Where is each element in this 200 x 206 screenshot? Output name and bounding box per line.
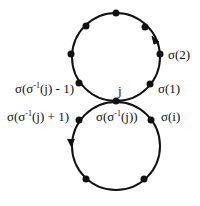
label-sigma-pred: σ(σ-1(j) - 1) (15, 81, 74, 96)
dot-sigma-i (148, 117, 155, 124)
dot-top (113, 10, 120, 17)
dot-upper-left (83, 23, 90, 30)
label-j: j (117, 83, 122, 98)
label-sigma-succ: σ(σ-1(j) + 1) (7, 109, 69, 124)
dot-left (68, 51, 75, 58)
dot-bottom-right (141, 176, 148, 183)
dot-sigma-2 (157, 51, 164, 58)
dot-sigma-pred (76, 80, 83, 87)
dot-sigma-1 (147, 81, 154, 88)
label-sigma-2: σ(2) (168, 47, 190, 62)
dot-junction-j (113, 98, 120, 105)
label-sigma-inv-j: σ(σ-1(j)) (96, 109, 138, 124)
dot-sigma-succ (76, 117, 83, 124)
label-sigma-i: σ(i) (161, 109, 180, 124)
arrow-down-icon (67, 139, 75, 147)
lower-cycle-dots (76, 117, 155, 183)
upper-cycle-dots (68, 10, 164, 88)
dot-bottom-left (83, 176, 90, 183)
label-sigma-1: σ(1) (158, 81, 180, 96)
dot-upper-right (142, 24, 149, 31)
permutation-cycle-diagram: σ(2) σ(1) σ(σ-1(j) - 1) j σ(σ-1(j)) σ(i)… (0, 0, 200, 206)
